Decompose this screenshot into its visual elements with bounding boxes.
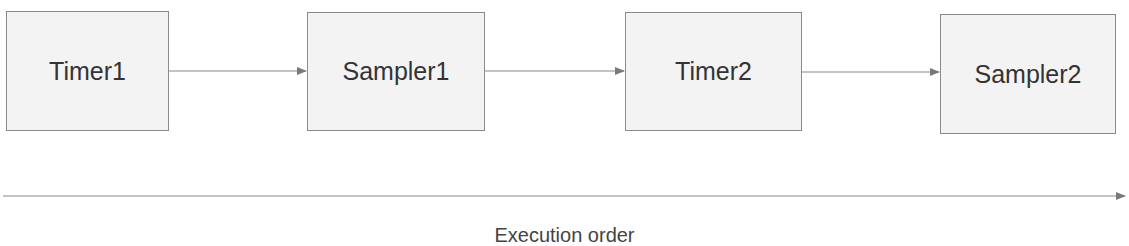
node-timer2: Timer2	[625, 12, 802, 131]
node-sampler1: Sampler1	[307, 12, 485, 131]
node-label: Timer1	[49, 57, 126, 86]
node-sampler2: Sampler2	[940, 14, 1116, 134]
node-label: Timer2	[675, 57, 752, 86]
node-label: Sampler2	[975, 60, 1082, 89]
node-label: Sampler1	[343, 57, 450, 86]
execution-order-label: Execution order	[0, 224, 1129, 246]
node-timer1: Timer1	[6, 11, 169, 131]
execution-order-diagram: Timer1 Sampler1 Timer2 Sampler2 Executio…	[0, 0, 1129, 246]
